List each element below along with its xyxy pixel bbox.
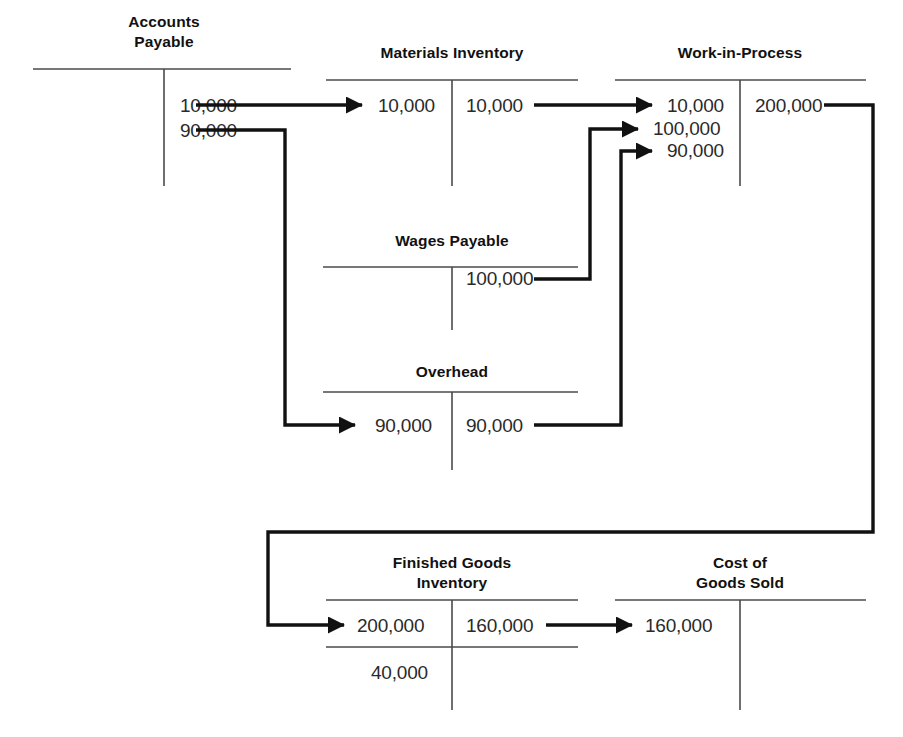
account-title-accounts-payable-line2: Payable (134, 33, 194, 50)
amount-work-in-process-debit-1: 10,000 (667, 95, 724, 116)
account-title-work-in-process: Work-in-Process (678, 44, 802, 61)
amount-work-in-process-credit-1: 200,000 (755, 95, 822, 116)
account-title-wages-payable: Wages Payable (395, 232, 509, 249)
account-cost-of-goods-sold: Cost of Goods Sold 160,000 (615, 554, 866, 710)
account-finished-goods-inventory: Finished Goods Inventory 200,000 160,000… (326, 554, 578, 710)
amount-overhead-credit-1: 90,000 (466, 415, 523, 436)
amount-finished-goods-credit-1: 160,000 (466, 615, 533, 636)
account-accounts-payable: Accounts Payable 10,000 90,000 (33, 13, 291, 186)
flow-wip-to-finished-goods-200000 (268, 105, 873, 625)
account-materials-inventory: Materials Inventory 10,000 10,000 (326, 44, 578, 186)
account-title-cost-of-goods-sold-line2: Goods Sold (696, 574, 784, 591)
account-work-in-process: Work-in-Process 10,000 100,000 90,000 20… (615, 44, 866, 186)
amount-cost-of-goods-sold-debit-1: 160,000 (645, 615, 712, 636)
account-title-overhead: Overhead (416, 363, 488, 380)
amount-overhead-debit-1: 90,000 (375, 415, 432, 436)
amount-work-in-process-debit-2: 100,000 (653, 118, 720, 139)
amount-work-in-process-debit-3: 90,000 (667, 140, 724, 161)
account-title-finished-goods-line2: Inventory (417, 574, 488, 591)
account-wages-payable: Wages Payable 100,000 (323, 232, 578, 330)
account-overhead: Overhead 90,000 90,000 (323, 363, 578, 470)
amount-materials-inventory-credit-1: 10,000 (466, 95, 523, 116)
account-title-cost-of-goods-sold-line1: Cost of (713, 554, 768, 571)
amount-wages-payable-credit-1: 100,000 (466, 268, 533, 289)
t-account-flow-diagram: Accounts Payable 10,000 90,000 Materials… (0, 0, 903, 737)
account-title-accounts-payable-line1: Accounts (128, 13, 199, 30)
amount-finished-goods-balance: 40,000 (371, 662, 428, 683)
account-title-finished-goods-line1: Finished Goods (393, 554, 512, 571)
amount-finished-goods-debit-1: 200,000 (357, 615, 424, 636)
account-title-materials-inventory: Materials Inventory (380, 44, 523, 61)
flow-ap-to-overhead-90000 (196, 130, 355, 425)
flow-overhead-to-wip-90000 (534, 151, 652, 425)
amount-materials-inventory-debit-1: 10,000 (378, 95, 435, 116)
